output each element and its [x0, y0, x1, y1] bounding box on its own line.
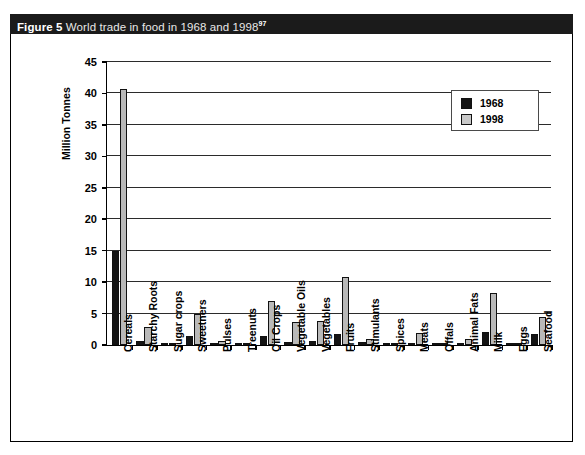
- x-tick-label-vegetable-oils: Vegetable Oils: [296, 280, 307, 352]
- x-tick-label-stimulants: Stimulants: [370, 298, 381, 352]
- bar-1968-meats: [408, 343, 415, 346]
- bar-chart: 051015202530354045 Million Tonnes Cereal…: [11, 34, 572, 441]
- bar-1968-pulses: [210, 343, 217, 345]
- legend-swatch-icon-1968: [461, 98, 472, 109]
- y-axis-title: Million Tonnes: [60, 87, 72, 160]
- bar-1968-sugar-crops: [161, 343, 168, 345]
- figure-title-bar: Figure 5 World trade in food in 1968 and…: [10, 14, 573, 34]
- figure-number: Figure 5: [17, 21, 63, 33]
- y-tick-label: 0: [63, 340, 97, 350]
- bar-1968-eggs: [506, 343, 513, 345]
- x-tick-label-animal-fats: Animal Fats: [469, 292, 480, 352]
- legend-label-1998: 1998: [480, 113, 503, 125]
- y-tick-label: 20: [63, 214, 97, 224]
- gridline: [107, 187, 551, 188]
- bar-1998-cereals: [120, 89, 127, 345]
- bar-1968-treenuts: [235, 343, 242, 345]
- bar-1968-oil-crops: [260, 336, 267, 345]
- x-tick-label-milk: Milk: [493, 332, 504, 352]
- y-tick: [102, 187, 107, 189]
- figure-container: Figure 5 World trade in food in 1968 and…: [10, 14, 573, 442]
- x-tick-label-eggs: Eggs: [518, 326, 529, 352]
- bar-1968-vegetables: [309, 341, 316, 345]
- bar-1968-starchy-roots: [136, 341, 143, 345]
- y-tick: [102, 124, 107, 126]
- x-tick-label-meats: Meats: [419, 322, 430, 352]
- x-tick-label-treenuts: Treenuts: [247, 308, 258, 352]
- legend-label-1968: 1968: [480, 97, 503, 109]
- gridline: [107, 281, 551, 282]
- bar-1968-seafood: [531, 334, 538, 345]
- x-tick-label-sweetners: Sweetners: [197, 299, 208, 352]
- y-tick: [102, 281, 107, 283]
- plot-area: 051015202530354045 Million Tonnes Cereal…: [106, 62, 551, 346]
- x-tick-label-vegetables: Vegetables: [321, 297, 332, 352]
- gridline: [107, 218, 551, 219]
- y-tick: [102, 93, 107, 95]
- legend-swatch-icon-1998: [461, 114, 472, 125]
- x-tick-label-sugar-crops: Sugar crops: [173, 291, 184, 352]
- y-tick-label: 25: [63, 183, 97, 193]
- bar-1968-vegetable-oils: [284, 342, 291, 345]
- x-tick-label-pulses: Pulses: [222, 318, 233, 352]
- y-tick: [102, 250, 107, 252]
- y-tick: [102, 218, 107, 220]
- bar-1968-animal-fats: [457, 343, 464, 346]
- y-tick: [102, 61, 107, 63]
- x-tick-label-offals: Offals: [444, 322, 455, 352]
- y-tick-label: 5: [63, 309, 97, 319]
- figure-footnote-marker: 97: [258, 20, 266, 27]
- bar-1968-sweetners: [186, 336, 193, 345]
- bar-1968-stimulants: [358, 342, 365, 345]
- x-tick-label-seafood: Seafood: [543, 311, 554, 352]
- y-tick-label: 15: [63, 246, 97, 256]
- bar-1968-milk: [482, 332, 489, 345]
- y-tick-label: 45: [63, 57, 97, 67]
- bar-1968-fruits: [334, 334, 341, 345]
- bar-1968-cereals: [112, 251, 119, 345]
- figure-body: 051015202530354045 Million Tonnes Cereal…: [10, 34, 573, 442]
- gridline: [107, 155, 551, 156]
- x-tick-label-cereals: Cereals: [123, 314, 134, 352]
- bar-1968-spices: [383, 343, 390, 345]
- plot-top-border: [107, 61, 551, 62]
- gridline: [107, 250, 551, 251]
- legend-item-1998: 1998: [461, 111, 538, 127]
- y-tick: [102, 156, 107, 158]
- x-tick-label-oil-crops: Oil Crops: [271, 305, 282, 352]
- x-tick-label-starchy-roots: Starchy Roots: [148, 281, 159, 352]
- figure-caption: World trade in food in 1968 and 1998: [66, 21, 259, 33]
- x-tick-label-fruits: Fruits: [345, 323, 356, 352]
- y-tick-label: 10: [63, 277, 97, 287]
- y-tick: [102, 344, 107, 346]
- legend-item-1968: 1968: [461, 95, 538, 111]
- y-tick: [102, 313, 107, 315]
- bar-1968-offals: [432, 343, 439, 345]
- chart-legend: 1968 1998: [451, 90, 539, 131]
- x-tick-label-spices: Spices: [395, 318, 406, 352]
